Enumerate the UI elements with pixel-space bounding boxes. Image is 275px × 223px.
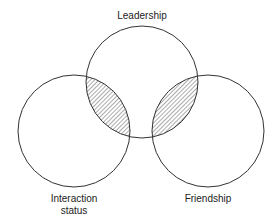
label-leadership: Leadership (112, 10, 172, 22)
label-interaction-status: Interaction status (44, 193, 104, 217)
label-interaction-line1: Interaction (44, 193, 104, 205)
venn-diagram (0, 0, 275, 223)
label-interaction-line2: status (44, 205, 104, 217)
label-friendship: Friendship (178, 193, 238, 205)
hatched-intersection-leadership-interaction (18, 75, 130, 187)
